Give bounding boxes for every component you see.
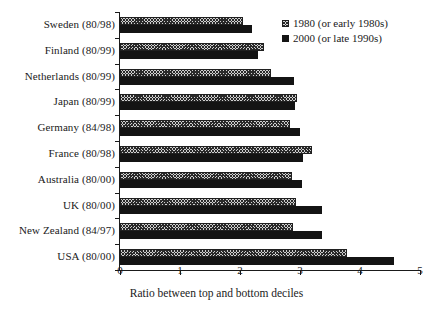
- category-label: Australia (80/00): [0, 174, 115, 185]
- y-axis-tick: [115, 141, 120, 142]
- bar-2000: [120, 102, 295, 110]
- y-axis-tick: [115, 218, 120, 219]
- bar-1980: [120, 17, 243, 25]
- category-label: USA (80/00): [0, 251, 115, 262]
- y-axis-tick: [115, 167, 120, 168]
- y-axis-tick: [115, 193, 120, 194]
- bar-2000: [120, 206, 322, 214]
- bar-1980: [120, 198, 296, 206]
- x-axis-line: [119, 270, 420, 271]
- category-label: UK (80/00): [0, 200, 115, 211]
- x-axis-tick-label: 4: [348, 264, 372, 276]
- legend-label-2000: 2000 (or late 1990s): [293, 32, 382, 44]
- category-label: New Zealand (84/97): [0, 225, 115, 236]
- x-axis-tick-label: 2: [228, 264, 252, 276]
- legend-item-2000: 2000 (or late 1990s): [282, 31, 388, 45]
- category-label: Germany (84/98): [0, 122, 115, 133]
- bar-1980: [120, 120, 290, 128]
- bar-2000: [120, 154, 303, 162]
- x-axis-tick-label: 5: [408, 264, 432, 276]
- chart-legend: 1980 (or early 1980s) 2000 (or late 1990…: [282, 16, 388, 46]
- plot-area: [120, 12, 420, 270]
- bar-1980: [120, 172, 292, 180]
- x-axis-title: Ratio between top and bottom deciles: [0, 287, 433, 300]
- category-label: Sweden (80/98): [0, 19, 115, 30]
- bar-2000: [120, 51, 258, 59]
- y-axis-tick: [115, 89, 120, 90]
- x-axis-tick-label: 3: [288, 264, 312, 276]
- category-label: Japan (80/99): [0, 96, 115, 107]
- bar-1980: [120, 249, 347, 257]
- x-axis-tick-label: 1: [168, 264, 192, 276]
- bar-2000: [120, 77, 294, 85]
- category-label: France (80/98): [0, 148, 115, 159]
- bar-chart: Sweden (80/98)Finland (80/99)Netherlands…: [0, 0, 433, 310]
- bar-1980: [120, 69, 271, 77]
- bar-2000: [120, 231, 322, 239]
- y-axis-tick: [115, 115, 120, 116]
- bar-1980: [120, 94, 297, 102]
- legend-label-1980: 1980 (or early 1980s): [293, 17, 388, 29]
- y-axis-tick: [115, 38, 120, 39]
- bar-2000: [120, 180, 302, 188]
- legend-swatch-hatched-icon: [282, 20, 289, 27]
- bar-2000: [120, 25, 252, 33]
- x-axis-tick-label: 0: [108, 264, 132, 276]
- y-axis-tick: [115, 244, 120, 245]
- category-axis-labels: Sweden (80/98)Finland (80/99)Netherlands…: [0, 12, 115, 270]
- legend-item-1980: 1980 (or early 1980s): [282, 16, 388, 30]
- bar-1980: [120, 43, 264, 51]
- legend-swatch-solid-icon: [282, 35, 289, 42]
- y-axis-tick: [115, 64, 120, 65]
- category-label: Netherlands (80/99): [0, 71, 115, 82]
- bar-2000: [120, 128, 300, 136]
- bar-1980: [120, 223, 293, 231]
- bar-1980: [120, 146, 312, 154]
- y-axis-tick: [115, 12, 120, 13]
- category-label: Finland (80/99): [0, 45, 115, 56]
